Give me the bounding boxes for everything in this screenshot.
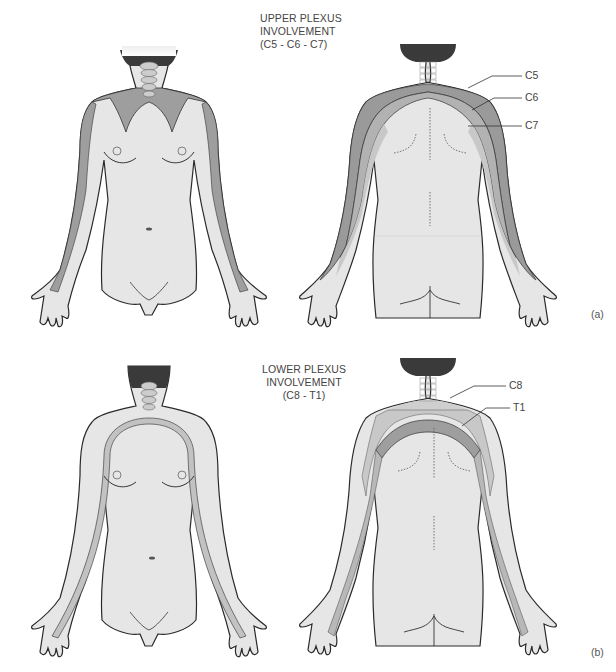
label-c8: C8 xyxy=(509,379,522,391)
lower-plexus-title: LOWER PLEXUS INVOLVEMENT (C8 - T1) xyxy=(244,363,364,402)
figure-lower-plexus: LOWER PLEXUS INVOLVEMENT (C8 - T1) C8 T1… xyxy=(0,336,616,672)
title-line-2: INVOLVEMENT xyxy=(260,25,342,38)
title-line-3: (C8 - T1) xyxy=(244,389,364,402)
title-line-2: INVOLVEMENT xyxy=(244,376,364,389)
panel-tag-b: (b) xyxy=(591,646,604,658)
label-c7: C7 xyxy=(525,119,538,131)
title-line-3: (C5 - C6 - C7) xyxy=(260,38,342,51)
upper-plexus-title: UPPER PLEXUS INVOLVEMENT (C5 - C6 - C7) xyxy=(260,12,342,51)
figure-upper-plexus: UPPER PLEXUS INVOLVEMENT (C5 - C6 - C7) … xyxy=(0,0,616,336)
front-body-a xyxy=(32,46,267,327)
label-c6: C6 xyxy=(525,91,538,103)
label-c5: C5 xyxy=(525,69,538,81)
panel-tag-a: (a) xyxy=(591,308,604,320)
title-line-1: UPPER PLEXUS xyxy=(260,12,342,25)
title-line-1: LOWER PLEXUS xyxy=(244,363,364,376)
back-body-a xyxy=(300,44,557,327)
front-body-b xyxy=(32,366,267,657)
label-t1: T1 xyxy=(513,401,525,413)
